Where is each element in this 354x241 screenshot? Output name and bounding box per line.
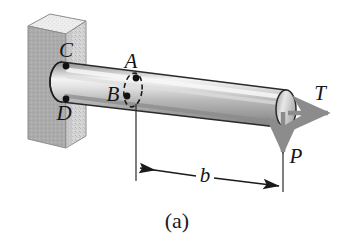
- dimension-line-left-segment: [140, 168, 196, 176]
- cantilever-bar: [50, 62, 296, 128]
- point-a-marker: [133, 75, 140, 82]
- figure-cantilever-bar-with-torque-and-load: A B C D T P b (a): [0, 0, 354, 241]
- point-c-marker: [63, 63, 70, 70]
- dimension-line-right-segment: [214, 178, 279, 186]
- label-point-a: A: [123, 49, 138, 73]
- label-point-c: C: [59, 38, 74, 62]
- label-point-b: B: [107, 82, 120, 106]
- label-dimension-b: b: [200, 163, 211, 187]
- label-point-d: D: [55, 101, 71, 125]
- figure-caption: (a): [165, 208, 189, 233]
- point-b-marker: [124, 93, 131, 100]
- label-load: P: [289, 144, 303, 168]
- label-torque: T: [314, 81, 327, 105]
- bar-free-end-cap: [276, 90, 296, 128]
